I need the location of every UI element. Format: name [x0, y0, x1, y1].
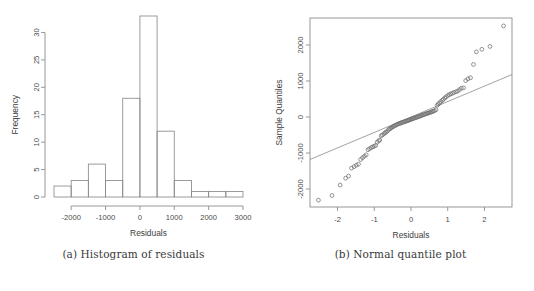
- x-axis-tick-label: 2000: [200, 213, 217, 222]
- y-axis-tick-label: 1000: [296, 73, 305, 90]
- qqplot-point: [502, 24, 506, 28]
- qqplot-point: [330, 194, 334, 198]
- histogram-bar: [140, 16, 157, 197]
- y-axis-tick-label: 0: [296, 115, 305, 119]
- x-axis-tick-label: -2: [334, 215, 341, 224]
- x-axis-tick-label: -1: [371, 215, 378, 224]
- x-axis-title: Residuals: [393, 230, 430, 240]
- qqplot-point: [480, 47, 484, 51]
- caption-b: (b) Normal quantile plot: [267, 248, 534, 260]
- x-axis-tick-label: -2000: [61, 213, 80, 222]
- qqplot-point: [472, 63, 476, 67]
- panel-qqplot: -2000-1000010002000-2-1012ResidualsSampl…: [267, 0, 534, 291]
- histogram-bar: [106, 181, 123, 197]
- qqplot-point: [488, 45, 492, 49]
- qqplot-point: [338, 183, 342, 187]
- y-axis-tick-label: 0: [32, 195, 41, 199]
- x-axis-tick-label: -1000: [96, 213, 115, 222]
- x-axis-tick-label: 1: [446, 215, 450, 224]
- y-axis-tick-label: -2000: [296, 179, 305, 198]
- histogram-bar: [226, 192, 243, 197]
- panel-histogram: 051015202530-2000-10000100020003000Resid…: [0, 0, 267, 291]
- y-axis-tick-label: 25: [32, 56, 41, 64]
- y-axis-tick-label: 10: [32, 138, 41, 146]
- figure-container: 051015202530-2000-10000100020003000Resid…: [0, 0, 534, 291]
- histogram-bars: [54, 16, 243, 197]
- qqplot-y-axis: -2000-1000010002000: [296, 37, 310, 199]
- histogram-bar: [174, 181, 191, 197]
- y-axis-title: Frequency: [10, 94, 20, 134]
- x-axis-tick-label: 1000: [166, 213, 183, 222]
- histogram-bar: [54, 186, 71, 197]
- histogram-y-axis: 051015202530: [32, 28, 45, 199]
- qqplot-point: [378, 138, 382, 142]
- qqplot-point: [347, 174, 351, 178]
- histogram-bar: [191, 192, 208, 197]
- x-axis-tick-label: 0: [409, 215, 413, 224]
- y-axis-tick-label: 15: [32, 111, 41, 119]
- histogram-x-axis: -2000-10000100020003000: [61, 206, 251, 222]
- qqplot-point: [317, 198, 321, 202]
- x-axis-tick-label: 0: [138, 213, 142, 222]
- y-axis-title: Sample Quantiles: [274, 79, 284, 145]
- histogram-bar: [209, 192, 226, 197]
- y-axis-tick-label: 5: [32, 167, 41, 171]
- qqplot-points: [317, 24, 506, 202]
- histogram-bar: [88, 164, 105, 197]
- y-axis-tick-label: 30: [32, 28, 41, 36]
- qqplot-x-axis: -2-1012: [334, 207, 486, 224]
- y-axis-tick-label: -1000: [296, 143, 305, 162]
- histogram-bar: [157, 131, 174, 197]
- y-axis-tick-label: 2000: [296, 37, 305, 54]
- x-axis-title: Residuals: [130, 228, 167, 238]
- histogram-plot-area: 051015202530-2000-10000100020003000Resid…: [0, 0, 267, 245]
- histogram-bar: [123, 98, 140, 197]
- histogram-svg: 051015202530-2000-10000100020003000Resid…: [0, 0, 267, 245]
- qqplot-frame: [310, 18, 512, 207]
- y-axis-tick-label: 20: [32, 83, 41, 91]
- histogram-bar: [71, 181, 88, 197]
- x-axis-tick-label: 3000: [235, 213, 252, 222]
- x-axis-tick-label: 2: [482, 215, 486, 224]
- qqplot-plot-area: -2000-1000010002000-2-1012ResidualsSampl…: [267, 0, 534, 245]
- qqplot-svg: -2000-1000010002000-2-1012ResidualsSampl…: [267, 0, 534, 245]
- qqplot-point: [474, 50, 478, 54]
- caption-a: (a) Histogram of residuals: [0, 248, 267, 260]
